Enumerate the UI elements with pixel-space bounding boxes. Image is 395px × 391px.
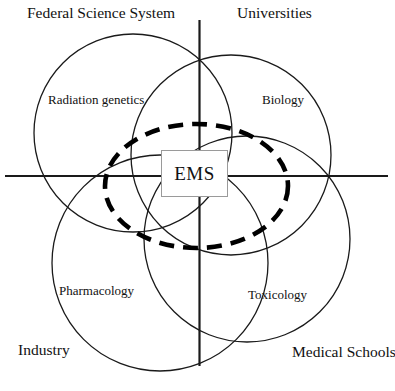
ems-center-box: EMS [161, 150, 228, 197]
corner-label-industry: Industry [18, 341, 70, 359]
circle-label-pharmacology: Pharmacology [59, 283, 134, 299]
circle-label-radiation-genetics: Radiation genetics [48, 92, 144, 108]
corner-label-universities: Universities [237, 4, 312, 22]
ems-label: EMS [174, 163, 215, 185]
venn-diagram: EMS Federal Science System Universities … [0, 0, 395, 391]
corner-label-medical-schools: Medical Schools [292, 343, 395, 361]
circle-pharmacology [52, 155, 268, 371]
circle-label-toxicology: Toxicology [248, 287, 307, 303]
corner-label-federal-science-system: Federal Science System [27, 4, 175, 22]
circle-label-biology: Biology [262, 92, 304, 108]
